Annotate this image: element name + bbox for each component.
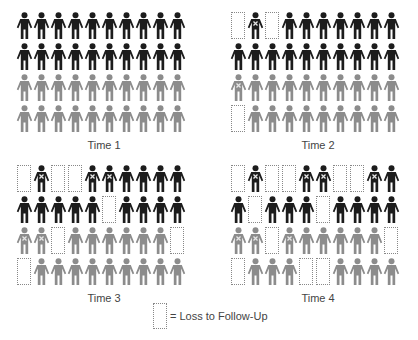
gray-person-icon: [84, 227, 101, 255]
black-person-icon-marked: [33, 165, 50, 193]
gray-person-icon: [383, 105, 400, 133]
black-person-icon: [101, 12, 118, 40]
black-person-icon: [383, 43, 400, 71]
gray-person-icon: [16, 74, 33, 102]
gray-person-icon: [135, 74, 152, 102]
black-person-icon: [169, 43, 186, 71]
black-person-icon: [84, 12, 101, 40]
gray-person-icon: [118, 105, 135, 133]
loss-to-follow-up-box: [231, 12, 245, 39]
gray-person-icon: [118, 227, 135, 255]
gray-person-icon: [247, 105, 264, 133]
loss-to-follow-up-box: [231, 105, 245, 132]
gray-person-icon: [366, 258, 383, 286]
gray-person-icon: [332, 105, 349, 133]
gray-person-icon: [169, 105, 186, 133]
black-person-icon: [298, 12, 315, 40]
gray-person-icon: [264, 105, 281, 133]
person-grid: [230, 12, 406, 134]
gray-person-icon: [152, 105, 169, 133]
black-person-icon: [33, 196, 50, 224]
loss-to-follow-up-box: [170, 227, 184, 254]
loss-to-follow-up-box: [316, 196, 330, 223]
gray-person-icon: [315, 105, 332, 133]
black-person-icon-marked: [247, 165, 264, 193]
gray-person-icon: [101, 105, 118, 133]
gray-person-icon-marked: [230, 74, 247, 102]
loss-to-follow-up-box: [231, 258, 245, 285]
gray-person-icon: [50, 105, 67, 133]
gray-person-icon: [67, 258, 84, 286]
black-person-icon: [366, 43, 383, 71]
black-person-icon-marked: [366, 165, 383, 193]
black-person-icon: [315, 43, 332, 71]
black-person-icon: [264, 196, 281, 224]
gray-person-icon: [315, 74, 332, 102]
person-grid: [16, 12, 192, 134]
gray-person-icon: [281, 105, 298, 133]
gray-person-icon: [298, 105, 315, 133]
black-person-icon: [118, 43, 135, 71]
black-person-icon: [135, 12, 152, 40]
gray-person-icon: [264, 74, 281, 102]
black-person-icon: [118, 12, 135, 40]
gray-person-icon-marked: [16, 227, 33, 255]
gray-person-icon: [281, 258, 298, 286]
gray-person-icon: [152, 227, 169, 255]
black-person-icon: [383, 196, 400, 224]
black-person-icon: [169, 12, 186, 40]
black-person-icon-marked: [315, 165, 332, 193]
black-person-icon: [298, 43, 315, 71]
gray-person-icon: [366, 105, 383, 133]
gray-person-icon: [332, 227, 349, 255]
loss-to-follow-up-box: [248, 196, 262, 223]
loss-to-follow-up-box: [51, 165, 65, 192]
black-person-icon: [84, 196, 101, 224]
black-person-icon: [264, 43, 281, 71]
loss-to-follow-up-box: [316, 258, 330, 285]
loss-to-follow-up-box: [68, 165, 82, 192]
panel-time-2: Time 2: [230, 12, 406, 134]
gray-person-icon: [169, 74, 186, 102]
black-person-icon: [33, 43, 50, 71]
gray-person-icon: [118, 258, 135, 286]
black-person-icon: [152, 43, 169, 71]
gray-person-icon: [101, 258, 118, 286]
gray-person-icon: [332, 74, 349, 102]
loss-to-follow-up-box: [350, 165, 364, 192]
black-person-icon: [281, 12, 298, 40]
loss-to-follow-up-box: [17, 258, 31, 285]
gray-person-icon: [247, 258, 264, 286]
gray-person-icon-marked: [230, 227, 247, 255]
black-person-icon: [349, 196, 366, 224]
gray-person-icon-marked: [33, 227, 50, 255]
black-person-icon: [298, 196, 315, 224]
gray-person-icon: [152, 258, 169, 286]
gray-person-icon: [50, 258, 67, 286]
gray-person-icon: [33, 105, 50, 133]
black-person-icon: [349, 43, 366, 71]
black-person-icon: [332, 43, 349, 71]
black-person-icon: [366, 12, 383, 40]
black-person-icon: [230, 196, 247, 224]
gray-person-icon-marked: [281, 227, 298, 255]
panel-time-4: Time 4: [230, 165, 406, 287]
black-person-icon: [50, 43, 67, 71]
gray-person-icon: [67, 105, 84, 133]
gray-person-icon: [349, 258, 366, 286]
black-person-icon: [16, 12, 33, 40]
black-person-icon: [383, 12, 400, 40]
gray-person-icon: [349, 74, 366, 102]
black-person-icon: [50, 12, 67, 40]
black-person-icon-marked: [101, 165, 118, 193]
black-person-icon: [135, 43, 152, 71]
gray-person-icon: [101, 74, 118, 102]
black-person-icon: [33, 12, 50, 40]
black-person-icon: [349, 12, 366, 40]
black-person-icon: [152, 165, 169, 193]
gray-person-icon: [332, 258, 349, 286]
gray-person-icon: [67, 227, 84, 255]
gray-person-icon: [281, 74, 298, 102]
black-person-icon: [281, 196, 298, 224]
black-person-icon: [332, 12, 349, 40]
